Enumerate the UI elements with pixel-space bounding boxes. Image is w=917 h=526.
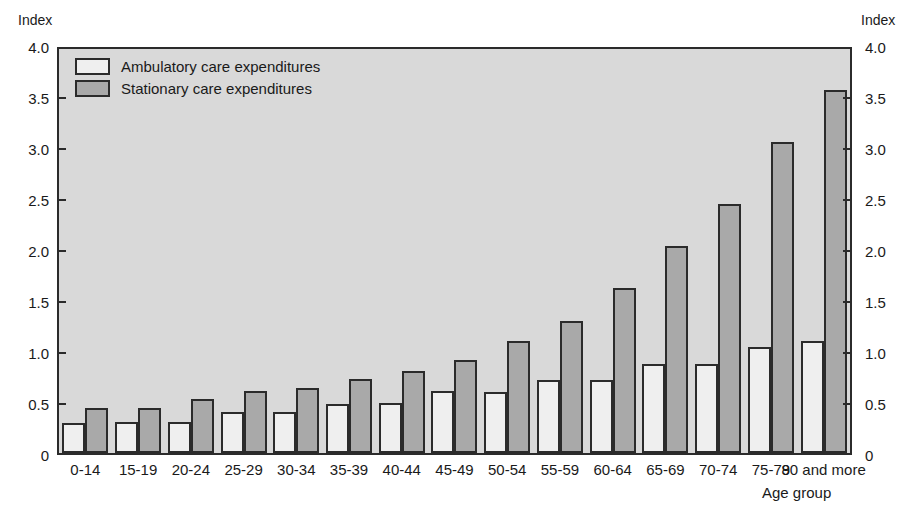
bar-chart: Index Index Ambulatory care expenditures…	[0, 0, 917, 526]
y-axis-unit-right: Index	[861, 12, 895, 28]
y-axis-tick-label-left: 0.5	[5, 396, 49, 413]
y-axis-tick-mark	[57, 148, 66, 150]
x-axis-tick-label: 45-49	[435, 461, 473, 478]
bar-ambulatory	[273, 412, 296, 453]
bar-stationary	[138, 408, 161, 453]
x-axis-tick-label: 15-19	[119, 461, 157, 478]
bars-layer	[59, 49, 850, 453]
bar-stationary	[85, 408, 108, 453]
bar-group	[481, 49, 534, 453]
bar-ambulatory	[168, 422, 191, 453]
bar-stationary	[824, 90, 847, 453]
y-axis-tick-label-left: 2.0	[5, 243, 49, 260]
y-axis-tick-mark	[57, 97, 66, 99]
bar-group	[375, 49, 428, 453]
y-axis-tick-mark	[57, 301, 66, 303]
y-axis-tick-mark	[843, 250, 852, 252]
legend-label: Stationary care expenditures	[121, 80, 312, 97]
x-axis-tick-label: 30-34	[277, 461, 315, 478]
x-axis-labels: 0-1415-1920-2425-2930-3435-3940-4445-495…	[57, 461, 852, 483]
y-axis-tick-mark	[843, 352, 852, 354]
bar-ambulatory	[695, 364, 718, 453]
bar-ambulatory	[379, 403, 402, 454]
bar-stationary	[402, 371, 425, 453]
y-axis-tick-label-right: 0	[865, 447, 909, 464]
y-axis-tick-label-left: 1.0	[5, 345, 49, 362]
y-axis-tick-label-left: 2.5	[5, 192, 49, 209]
bar-stationary	[454, 360, 477, 453]
x-axis-tick-label: 0-14	[70, 461, 100, 478]
y-axis-tick-label-right: 2.0	[865, 243, 909, 260]
bar-group	[59, 49, 112, 453]
y-axis-tick-label-left: 0	[5, 447, 49, 464]
y-axis-tick-label-right: 2.5	[865, 192, 909, 209]
y-axis-tick-mark	[843, 148, 852, 150]
bar-group	[428, 49, 481, 453]
bar-ambulatory	[748, 347, 771, 453]
legend-item-ambulatory: Ambulatory care expenditures	[75, 58, 320, 75]
bar-group	[692, 49, 745, 453]
x-axis-tick-label: 80 and more	[782, 461, 866, 478]
x-axis-title: Age group	[762, 484, 831, 501]
bar-group	[164, 49, 217, 453]
y-axis-tick-label-right: 4.0	[865, 39, 909, 56]
bar-stationary	[718, 204, 741, 453]
legend-label: Ambulatory care expenditures	[121, 58, 320, 75]
x-axis-tick-label: 65-69	[646, 461, 684, 478]
bar-stationary	[296, 388, 319, 453]
bar-ambulatory	[115, 422, 138, 453]
x-axis-tick-label: 40-44	[383, 461, 421, 478]
bar-ambulatory	[484, 392, 507, 453]
bar-ambulatory	[537, 380, 560, 453]
x-axis-tick-label: 50-54	[488, 461, 526, 478]
x-axis-tick-label: 25-29	[224, 461, 262, 478]
x-axis-tick-label: 35-39	[330, 461, 368, 478]
y-axis-tick-label-right: 0.5	[865, 396, 909, 413]
bar-ambulatory	[221, 412, 244, 453]
bar-group	[112, 49, 165, 453]
bar-ambulatory	[590, 380, 613, 453]
x-axis-tick-label: 55-59	[541, 461, 579, 478]
y-axis-tick-mark	[57, 352, 66, 354]
bar-group	[745, 49, 798, 453]
y-axis-tick-label-left: 1.5	[5, 294, 49, 311]
y-axis-tick-mark	[843, 97, 852, 99]
y-axis-tick-mark	[57, 403, 66, 405]
bar-stationary	[349, 379, 372, 453]
y-axis-tick-mark	[843, 199, 852, 201]
y-axis-tick-label-right: 1.0	[865, 345, 909, 362]
y-axis-tick-label-left: 3.0	[5, 141, 49, 158]
legend-swatch-icon	[75, 80, 110, 97]
bar-ambulatory	[801, 341, 824, 453]
bar-stationary	[665, 246, 688, 453]
bar-stationary	[771, 142, 794, 453]
bar-group	[217, 49, 270, 453]
y-axis-tick-label-left: 3.5	[5, 90, 49, 107]
legend-swatch-icon	[75, 58, 110, 75]
chart-legend: Ambulatory care expendituresStationary c…	[75, 58, 320, 97]
bar-ambulatory	[62, 423, 85, 453]
bar-stationary	[191, 399, 214, 453]
bar-stationary	[560, 321, 583, 453]
x-axis-tick-label: 70-74	[699, 461, 737, 478]
y-axis-tick-label-right: 1.5	[865, 294, 909, 311]
y-axis-tick-label-left: 4.0	[5, 39, 49, 56]
bar-group	[586, 49, 639, 453]
bar-group	[534, 49, 587, 453]
bar-group	[639, 49, 692, 453]
y-axis-unit-left: Index	[18, 12, 52, 28]
bar-ambulatory	[431, 391, 454, 453]
x-axis-tick-label: 60-64	[594, 461, 632, 478]
y-axis-tick-mark	[843, 403, 852, 405]
bar-ambulatory	[326, 404, 349, 453]
x-axis-tick-label: 20-24	[172, 461, 210, 478]
y-axis-tick-mark	[57, 199, 66, 201]
y-axis-tick-label-right: 3.0	[865, 141, 909, 158]
bar-stationary	[613, 288, 636, 453]
bar-group	[270, 49, 323, 453]
y-axis-tick-mark	[843, 301, 852, 303]
bar-ambulatory	[642, 364, 665, 453]
bar-stationary	[244, 391, 267, 453]
y-axis-tick-mark	[57, 250, 66, 252]
bar-stationary	[507, 341, 530, 453]
